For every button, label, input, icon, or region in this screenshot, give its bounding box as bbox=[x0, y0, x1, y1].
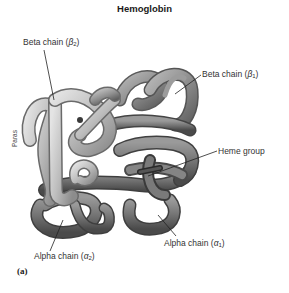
artist-credit: Paras bbox=[11, 130, 18, 147]
label-alpha-chain-2: Alpha chain (α2) bbox=[34, 251, 95, 261]
label-beta-chain-1: Beta chain (β1) bbox=[202, 69, 258, 79]
panel-label: (a) bbox=[17, 266, 28, 276]
label-beta-chain-2: Beta chain (β2) bbox=[23, 37, 79, 47]
label-heme-group: Heme group bbox=[218, 146, 265, 156]
label-alpha-chain-1: Alpha chain (α1) bbox=[164, 238, 225, 248]
leader-line-beta2 bbox=[44, 50, 54, 100]
hemoglobin-figure: Hemoglobin bbox=[0, 0, 289, 293]
